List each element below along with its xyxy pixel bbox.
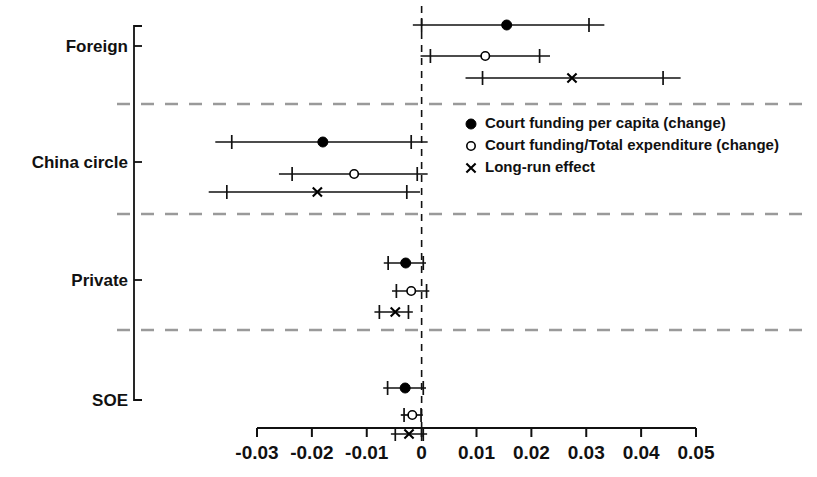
forest-plot-canvas: ForeignChina circlePrivateSOE -0.03-0.02… [0, 0, 817, 477]
marker-filled-circle [400, 383, 410, 393]
group-label-china-circle: China circle [32, 153, 128, 172]
estimate-row [209, 185, 420, 199]
group-label-soe: SOE [92, 391, 128, 410]
legend-entry: Court funding/Total expenditure (change) [467, 136, 779, 153]
estimate-rows [209, 18, 681, 441]
marker-open-circle [408, 411, 416, 419]
x-axis-tick-label-2: -0.01 [345, 442, 389, 463]
y-axis-spine [134, 26, 142, 400]
marker-filled-circle [502, 20, 512, 30]
estimate-row [279, 167, 428, 181]
group-label-foreign: Foreign [66, 37, 128, 56]
marker-open-circle [467, 142, 475, 150]
estimate-row [374, 305, 412, 319]
estimate-row [466, 71, 681, 85]
marker-open-circle [350, 170, 358, 178]
estimate-row [401, 408, 423, 422]
marker-open-circle [481, 52, 489, 60]
legend-label-0: Court funding per capita (change) [485, 114, 726, 131]
estimate-row [384, 256, 426, 270]
estimate-row [383, 381, 426, 395]
x-axis-tick-label-5: 0.02 [513, 442, 550, 463]
marker-cross [466, 163, 475, 172]
legend: Court funding per capita (change)Court f… [466, 114, 779, 175]
marker-open-circle [407, 287, 415, 295]
group-label-private: Private [71, 271, 128, 290]
estimate-row [421, 49, 551, 63]
x-axis-tick-label-0: -0.03 [235, 442, 278, 463]
legend-entry: Long-run effect [466, 158, 595, 175]
marker-filled-circle [401, 258, 411, 268]
marker-filled-circle [466, 119, 476, 129]
x-axis-tick-label-1: -0.02 [290, 442, 333, 463]
x-axis-tick-label-6: 0.03 [568, 442, 605, 463]
x-axis-tick-label-3: 0 [416, 442, 427, 463]
group-labels: ForeignChina circlePrivateSOE [32, 37, 128, 410]
coefficient-plot-figure: ForeignChina circlePrivateSOE -0.03-0.02… [0, 0, 817, 477]
legend-label-1: Court funding/Total expenditure (change) [485, 136, 779, 153]
x-axis-tick-label-4: 0.01 [458, 442, 495, 463]
x-axis-tick-label-7: 0.04 [623, 442, 660, 463]
estimate-row [392, 284, 429, 298]
x-axis: -0.03-0.02-0.0100.010.020.030.040.05 [235, 428, 715, 463]
legend-entry: Court funding per capita (change) [466, 114, 726, 131]
x-axis-tick-label-8: 0.05 [678, 442, 715, 463]
estimate-row [413, 18, 605, 32]
legend-label-2: Long-run effect [485, 158, 595, 175]
marker-filled-circle [318, 137, 328, 147]
estimate-row [215, 135, 427, 149]
y-axis-bracket [134, 26, 142, 400]
